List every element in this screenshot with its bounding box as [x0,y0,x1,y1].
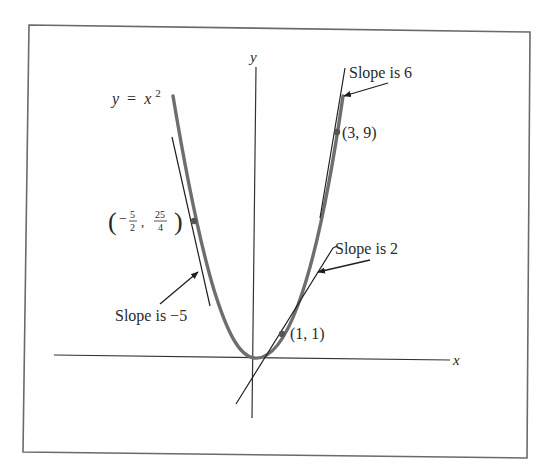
svg-text:2: 2 [130,222,135,233]
slope-2-label: Slope is 2 [335,240,398,258]
slope-6-label: Slope is 6 [349,64,412,82]
svg-text:,: , [141,214,144,229]
y-axis-label: y [248,49,257,65]
point-marker-neg5half [191,218,197,224]
arrow-slope-neg5 [160,272,198,304]
curve-label: y = x 2 [110,87,161,108]
svg-text:5: 5 [130,209,135,220]
svg-text:25: 25 [155,209,165,220]
point-3-9-label: (3, 9) [342,124,377,142]
point-marker-1-1 [279,331,285,337]
slope-neg5-label: Slope is −5 [115,307,187,325]
point-neg5half-label: ( − 5 2 , 25 4 ) [108,207,183,236]
tangent-lines-diagram: x y y = x 2 Slope is 6 (3, 9) Slope is 2… [0,0,557,472]
parabola-curve [173,96,343,358]
figure-frame [23,25,530,458]
svg-text:−: − [119,211,127,226]
arrow-slope-6 [344,83,388,96]
x-axis-label: x [452,352,460,368]
y-axis [252,67,256,418]
svg-text:): ) [174,207,183,236]
arrow-slope-2 [318,260,370,272]
svg-text:(: ( [108,207,117,236]
point-marker-3-9 [334,129,340,135]
tangent-line-slope-6 [320,68,345,218]
svg-text:4: 4 [158,222,163,233]
point-1-1-label: (1, 1) [290,325,325,343]
